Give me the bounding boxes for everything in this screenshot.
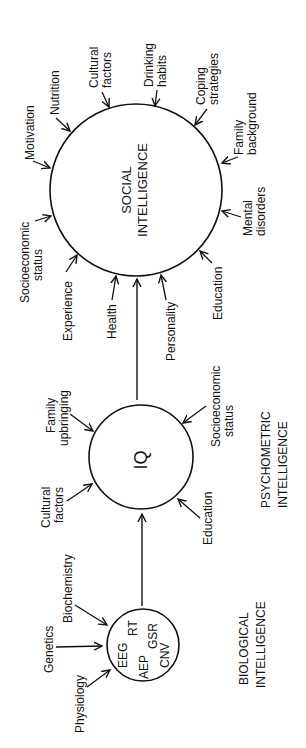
factor-iq-cultural-2: factors xyxy=(52,487,66,523)
coping-arrow xyxy=(195,109,207,125)
factor-family-background-1: Family xyxy=(232,120,246,155)
factor-iq-education: Education xyxy=(201,492,215,545)
factor-physiology: Physiology xyxy=(73,675,87,733)
factor-health: Health xyxy=(105,304,119,339)
factor-family-upbringing-1: Family xyxy=(44,398,58,433)
factor-iq-socioeconomic-2: status xyxy=(222,405,236,437)
factor-social-cultural-1: Cultural xyxy=(87,47,101,88)
factor-nutrition: Nutrition xyxy=(48,70,62,115)
experience-arrow xyxy=(66,255,77,272)
social-socioeconomic-arrow xyxy=(35,216,51,221)
measure-aep: AEP xyxy=(137,655,151,679)
factor-coping-2: strategies xyxy=(207,53,221,105)
measure-eeg: EEG xyxy=(116,643,130,668)
factor-iq-cultural-1: Cultural xyxy=(39,487,53,528)
motivation-arrow xyxy=(33,161,50,168)
diagram-canvas: SOCIAL INTELLIGENCE Motivation Nutrition… xyxy=(0,0,306,748)
factor-genetics: Genetics xyxy=(42,626,56,673)
biochemistry-arrow xyxy=(75,605,107,625)
factor-motivation: Motivation xyxy=(23,105,37,160)
factor-social-education: Education xyxy=(211,267,225,320)
caption-psychometric-2: INTELLIGENCE xyxy=(276,421,290,508)
mental-disorders-arrow xyxy=(222,211,241,217)
measure-cnv: CNV xyxy=(158,643,172,668)
factor-mental-2: disorders xyxy=(254,187,268,236)
factor-personality: Personality xyxy=(164,302,178,361)
iq-label: IQ xyxy=(131,450,151,469)
factor-drinking-1: Drinking xyxy=(142,43,156,87)
measure-rt: RT xyxy=(126,620,140,636)
factor-mental-1: Mental xyxy=(241,200,255,236)
factor-social-socioeconomic-1: Socioeconomic xyxy=(18,222,32,303)
caption-psychometric-1: PSYCHOMETRIC xyxy=(259,411,273,508)
factor-coping-1: Coping xyxy=(194,67,208,105)
genetics-arrow xyxy=(56,646,102,647)
social-label-line2: INTELLIGENCE xyxy=(135,143,150,237)
nutrition-arrow xyxy=(56,118,70,131)
drinking-arrow xyxy=(155,90,157,106)
intelligence-diagram: SOCIAL INTELLIGENCE Motivation Nutrition… xyxy=(0,0,306,748)
caption-biological-2: INTELLIGENCE xyxy=(254,601,268,688)
social-label-line1: SOCIAL xyxy=(119,166,134,214)
caption-biological-1: BIOLOGICAL xyxy=(237,612,251,685)
family-upbringing-arrow xyxy=(70,414,93,431)
factor-social-cultural-2: factors xyxy=(100,52,114,88)
factor-experience: Experience xyxy=(61,281,75,341)
iq-cultural-arrow xyxy=(67,484,92,501)
factor-family-background-2: background xyxy=(245,92,259,155)
social-education-arrow xyxy=(200,251,212,263)
health-arrow xyxy=(112,276,116,300)
family-background-arrow xyxy=(222,157,238,163)
iq-socioeconomic-arrow xyxy=(183,406,206,423)
factor-drinking-2: habits xyxy=(155,55,169,87)
factor-family-upbringing-2: upbringing xyxy=(57,390,71,446)
physiology-arrow xyxy=(87,670,110,687)
personality-arrow xyxy=(161,275,166,300)
factor-iq-socioeconomic-1: Socioeconomic xyxy=(209,366,223,447)
factor-biochemistry: Biochemistry xyxy=(61,554,75,623)
social-cultural-arrow xyxy=(102,92,109,107)
iq-education-arrow xyxy=(178,499,200,518)
factor-social-socioeconomic-2: status xyxy=(31,249,45,281)
